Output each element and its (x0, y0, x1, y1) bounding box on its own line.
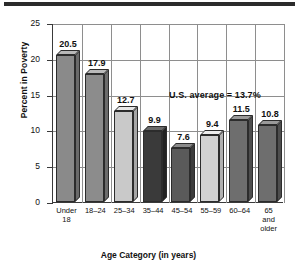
bar (258, 120, 277, 202)
bar-side-face (190, 143, 195, 202)
bar-side-face (104, 69, 109, 202)
plot-area: 20.517.912.79.97.69.411.510.8 U.S. avera… (52, 24, 283, 203)
gridline-vertical (169, 24, 170, 203)
y-axis-tick-label: 20 (31, 54, 40, 64)
x-axis-tick-labels: Under1818–2425–3435–4445–5455–5960–6465a… (52, 206, 283, 250)
gridline-vertical (140, 24, 141, 203)
bar-side-face (219, 130, 224, 202)
bar-side-face (162, 126, 167, 202)
bar-front-face (229, 120, 248, 202)
bar (85, 69, 104, 202)
bar-value-label: 12.7 (111, 95, 141, 105)
y-axis-tick-label: 5 (35, 161, 40, 171)
y-axis-tick-label: 15 (31, 90, 40, 100)
y-axis-tick-label: 25 (31, 18, 40, 28)
x-axis-label-line: older (260, 224, 277, 233)
bar-value-label: 9.4 (197, 119, 227, 129)
bar-front-face (56, 55, 75, 202)
x-axis-title: Age Category (in years) (0, 250, 297, 260)
bar (200, 130, 219, 202)
y-axis-tick (47, 131, 53, 132)
x-axis-label-line: 45–54 (172, 206, 193, 215)
bar-front-face (258, 125, 277, 202)
gridline-vertical (82, 24, 83, 203)
bar-front-face (143, 131, 162, 202)
x-axis-label-line: 65 (264, 206, 272, 215)
bar-front-face (114, 111, 133, 202)
bar-value-label: 17.9 (82, 58, 112, 68)
bar-side-face (75, 50, 80, 202)
y-axis-tick (47, 203, 53, 204)
us-average-annotation: U.S. average = 13.7% (169, 90, 261, 100)
x-axis-tick-label: 65andolder (250, 206, 287, 233)
x-axis-label-line: 18 (62, 215, 70, 224)
y-axis-tick (47, 167, 53, 168)
bar (56, 50, 75, 202)
gridline-vertical (197, 24, 198, 203)
x-axis-label-line: 35–44 (143, 206, 164, 215)
y-axis-tick (47, 60, 53, 61)
bar-side-face (277, 120, 282, 202)
x-axis-label-line: 18–24 (85, 206, 106, 215)
bar (114, 106, 133, 202)
bar-front-face (171, 148, 190, 202)
bar-side-face (248, 115, 253, 202)
bar (171, 143, 190, 202)
bar-value-label: 20.5 (53, 39, 83, 49)
bar (229, 115, 248, 202)
bar-side-face (133, 106, 138, 202)
bar-value-label: 9.9 (140, 115, 170, 125)
poverty-by-age-chart-figure: Percent in Poverty 0510152025 20.517.912… (0, 0, 297, 272)
x-axis-label-line: 60–64 (229, 206, 250, 215)
x-axis-label-line: 25–34 (114, 206, 135, 215)
x-axis-label-line: Under (56, 206, 76, 215)
y-axis-tick (47, 24, 53, 25)
y-axis-tick-labels: 0510152025 (0, 24, 48, 203)
gridline-vertical (111, 24, 112, 203)
y-axis-tick-label: 0 (35, 197, 40, 207)
top-divider-rule (4, 2, 295, 6)
bar-value-label: 10.8 (255, 109, 285, 119)
y-axis-tick-label: 10 (31, 125, 40, 135)
bar-front-face (200, 135, 219, 202)
y-axis-tick (47, 96, 53, 97)
x-axis-label-line: and (262, 215, 275, 224)
bar-front-face (85, 74, 104, 202)
bar (143, 126, 162, 202)
x-axis-label-line: 55–59 (200, 206, 221, 215)
bar-value-label: 7.6 (168, 132, 198, 142)
bar-value-label: 11.5 (226, 104, 256, 114)
